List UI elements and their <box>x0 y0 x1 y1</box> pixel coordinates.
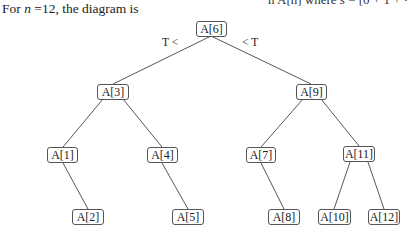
tree-node-a3: A[3] <box>97 84 129 100</box>
tree-node-a7: A[7] <box>246 147 276 163</box>
edge-a11-a10 <box>334 162 350 209</box>
edge-a3-a4 <box>123 99 162 147</box>
tree-node-a12: A[12] <box>368 209 400 225</box>
edge-a3-a1 <box>63 99 103 147</box>
edge-a4-a5 <box>162 163 188 209</box>
edge-label-left: T < <box>162 36 178 48</box>
tree-node-a9: A[9] <box>296 84 327 100</box>
tree-node-a1: A[1] <box>47 147 78 163</box>
tree-node-a10: A[10] <box>318 209 351 225</box>
edge-a11-a12 <box>368 162 384 209</box>
edge-label-right: < T <box>242 36 258 48</box>
edge-a1-a2 <box>63 163 88 209</box>
tree-node-a5: A[5] <box>172 209 204 225</box>
tree-node-a6: A[6] <box>196 21 227 37</box>
tree-node-a4: A[4] <box>147 147 178 163</box>
edge-a6-a9 <box>211 36 311 84</box>
tree-node-a2: A[2] <box>72 209 104 225</box>
edge-a9-a11 <box>321 99 359 146</box>
tree-node-a8: A[8] <box>268 209 300 225</box>
edge-a7-a8 <box>261 163 284 209</box>
edge-a9-a7 <box>261 99 303 147</box>
tree-node-a11: A[11] <box>343 146 375 162</box>
